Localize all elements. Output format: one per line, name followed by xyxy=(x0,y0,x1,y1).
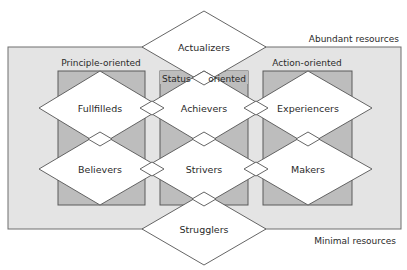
strivers-label: Strivers xyxy=(186,164,223,175)
vals-diagram: Abundant resources Minimal resources Pri… xyxy=(0,0,407,270)
action-oriented-label: Action-oriented xyxy=(272,58,341,68)
abundant-resources-label: Abundant resources xyxy=(309,34,400,44)
experiencers-label: Experiencers xyxy=(277,103,339,114)
strugglers-label: Strugglers xyxy=(179,224,228,235)
minimal-resources-label: Minimal resources xyxy=(314,236,396,246)
believers-label: Believers xyxy=(78,164,122,175)
status-label: Status xyxy=(162,74,191,84)
achievers-label: Achievers xyxy=(181,103,227,114)
actualizers-label: Actualizers xyxy=(178,42,230,53)
fullfilleds-label: Fullfilleds xyxy=(78,103,122,114)
makers-label: Makers xyxy=(291,164,325,175)
principle-oriented-label: Principle-oriented xyxy=(61,58,141,68)
oriented-label: oriented xyxy=(208,74,246,84)
